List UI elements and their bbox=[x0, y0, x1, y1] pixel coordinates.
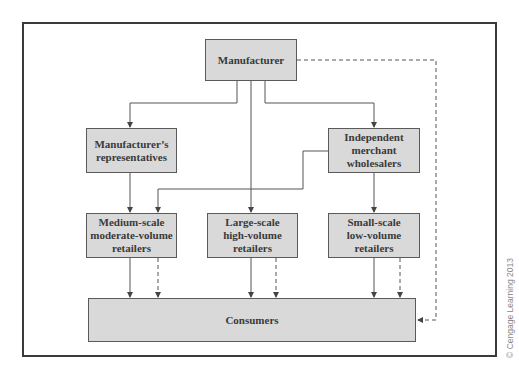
node-manufacturer: Manufacturer bbox=[205, 39, 297, 81]
edge-manufacturer-wholesalers bbox=[265, 81, 374, 127]
node-small-scale-retailers: Small-scale low-volume retailers bbox=[328, 213, 420, 258]
node-manufacturers-representatives: Manufacturer’s representatives bbox=[86, 128, 177, 173]
edge-manufacturer-consumers-dashed bbox=[297, 60, 436, 320]
edge-manufacturer-reps bbox=[130, 81, 237, 127]
node-large-scale-retailers: Large-scale high-volume retailers bbox=[207, 213, 298, 258]
node-independent-merchant-wholesalers: Independent merchant wholesalers bbox=[328, 128, 420, 173]
node-consumers: Consumers bbox=[88, 298, 416, 342]
edge-wholesalers-medium bbox=[158, 151, 328, 212]
copyright-notice: © Cengage Learning 2013 bbox=[505, 258, 515, 358]
node-medium-scale-retailers: Medium-scale moderate-volume retailers bbox=[86, 213, 177, 258]
